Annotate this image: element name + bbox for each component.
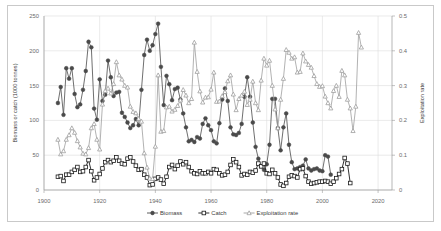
- series-marker-biomass: [87, 40, 91, 44]
- series-marker-catch: [346, 162, 350, 166]
- series-marker-biomass: [254, 145, 258, 149]
- series-marker-exploitation-rate: [273, 107, 277, 111]
- x-tick-label-1920: 1920: [93, 198, 106, 204]
- series-marker-exploitation-rate: [329, 106, 333, 110]
- series-marker-exploitation-rate: [61, 149, 65, 153]
- series-marker-catch: [176, 164, 180, 168]
- series-marker-exploitation-rate: [145, 165, 149, 169]
- series-marker-catch: [343, 156, 347, 160]
- series-marker-biomass: [184, 125, 188, 129]
- series-marker-exploitation-rate: [195, 69, 199, 73]
- series-marker-exploitation-rate: [281, 76, 285, 80]
- series-marker-biomass: [156, 22, 160, 26]
- chart-svg: 0501001502002501900192019401960198020002…: [0, 0, 441, 231]
- series-marker-exploitation-rate: [334, 83, 338, 87]
- y-tick-label-50: 50: [33, 152, 39, 158]
- series-marker-biomass: [268, 143, 272, 147]
- series-marker-exploitation-rate: [251, 79, 255, 83]
- series-marker-biomass: [142, 53, 146, 57]
- series-marker-catch: [276, 176, 280, 180]
- series-marker-exploitation-rate: [192, 40, 196, 44]
- series-marker-catch: [284, 181, 288, 185]
- series-marker-exploitation-rate: [176, 104, 180, 108]
- series-marker-catch: [237, 165, 241, 169]
- series-marker-exploitation-rate: [156, 73, 160, 77]
- series-marker-catch: [209, 171, 213, 175]
- series-marker-catch: [98, 172, 102, 176]
- series-marker-biomass: [240, 122, 244, 126]
- series-marker-biomass: [206, 123, 210, 127]
- series-marker-biomass: [256, 157, 260, 161]
- series-marker-biomass: [290, 160, 294, 164]
- series-marker-biomass: [251, 121, 255, 125]
- series-marker-exploitation-rate: [184, 93, 188, 97]
- series-marker-exploitation-rate: [64, 137, 68, 141]
- series-marker-biomass: [151, 43, 155, 47]
- series-marker-biomass: [204, 116, 208, 120]
- legend-label-catch: Catch: [211, 210, 226, 216]
- series-marker-biomass: [126, 121, 130, 125]
- series-marker-biomass: [73, 92, 77, 96]
- series-marker-biomass: [98, 77, 102, 81]
- series-marker-biomass: [106, 59, 110, 63]
- series-marker-catch: [273, 171, 277, 175]
- series-marker-biomass: [245, 75, 249, 79]
- series-marker-exploitation-rate: [304, 59, 308, 63]
- series-marker-exploitation-rate: [265, 63, 269, 67]
- series-marker-biomass: [165, 74, 169, 78]
- series-marker-exploitation-rate: [359, 45, 363, 49]
- series-marker-biomass: [78, 102, 82, 106]
- series-marker-catch: [335, 176, 339, 180]
- series-marker-biomass: [84, 69, 88, 73]
- series-marker-exploitation-rate: [209, 87, 213, 91]
- y-tick-label-0: 0: [36, 187, 39, 193]
- series-marker-catch: [254, 169, 258, 173]
- series-marker-biomass: [56, 101, 60, 105]
- series-marker-biomass: [89, 45, 93, 49]
- series-marker-biomass: [304, 157, 308, 161]
- y2-tick-label-0.2: 0.2: [399, 117, 407, 123]
- series-marker-biomass: [192, 140, 196, 144]
- series-marker-biomass: [131, 123, 135, 127]
- series-marker-biomass: [120, 111, 124, 115]
- series-marker-biomass: [170, 98, 174, 102]
- series-marker-exploitation-rate: [223, 90, 227, 94]
- series-marker-biomass: [162, 103, 166, 107]
- series-marker-catch: [170, 163, 174, 167]
- series-marker-biomass: [137, 123, 141, 127]
- series-marker-biomass: [226, 99, 230, 103]
- series-marker-biomass: [67, 77, 71, 81]
- legend-marker-filled-circle: [151, 211, 155, 215]
- chart-canvas: 0501001502002501900192019401960198020002…: [0, 0, 441, 231]
- series-marker-biomass: [229, 125, 233, 129]
- series-marker-exploitation-rate: [356, 31, 360, 35]
- series-marker-exploitation-rate: [259, 78, 263, 82]
- series-marker-catch: [270, 168, 274, 172]
- series-marker-biomass: [284, 112, 288, 116]
- series-marker-exploitation-rate: [292, 55, 296, 59]
- series-marker-biomass: [279, 148, 283, 152]
- series-marker-exploitation-rate: [56, 137, 60, 141]
- series-marker-catch: [81, 169, 85, 173]
- series-marker-exploitation-rate: [153, 144, 157, 148]
- series-marker-catch: [95, 176, 99, 180]
- series-marker-biomass: [62, 113, 66, 117]
- series-marker-catch: [234, 160, 238, 164]
- series-marker-exploitation-rate: [86, 146, 90, 150]
- series-marker-exploitation-rate: [267, 58, 271, 62]
- series-marker-catch: [112, 159, 116, 163]
- y-tick-label-150: 150: [29, 83, 39, 89]
- series-marker-biomass: [201, 122, 205, 126]
- series-marker-biomass: [123, 115, 127, 119]
- series-marker-catch: [90, 169, 94, 173]
- series-marker-exploitation-rate: [231, 92, 235, 96]
- series-marker-biomass: [109, 75, 113, 79]
- series-marker-biomass: [176, 86, 180, 90]
- y2-tick-label-0.3: 0.3: [399, 83, 407, 89]
- series-marker-exploitation-rate: [315, 82, 319, 86]
- series-marker-exploitation-rate: [284, 48, 288, 52]
- series-marker-catch: [229, 163, 233, 167]
- series-marker-exploitation-rate: [70, 126, 74, 130]
- series-marker-exploitation-rate: [206, 95, 210, 99]
- series-marker-exploitation-rate: [323, 94, 327, 98]
